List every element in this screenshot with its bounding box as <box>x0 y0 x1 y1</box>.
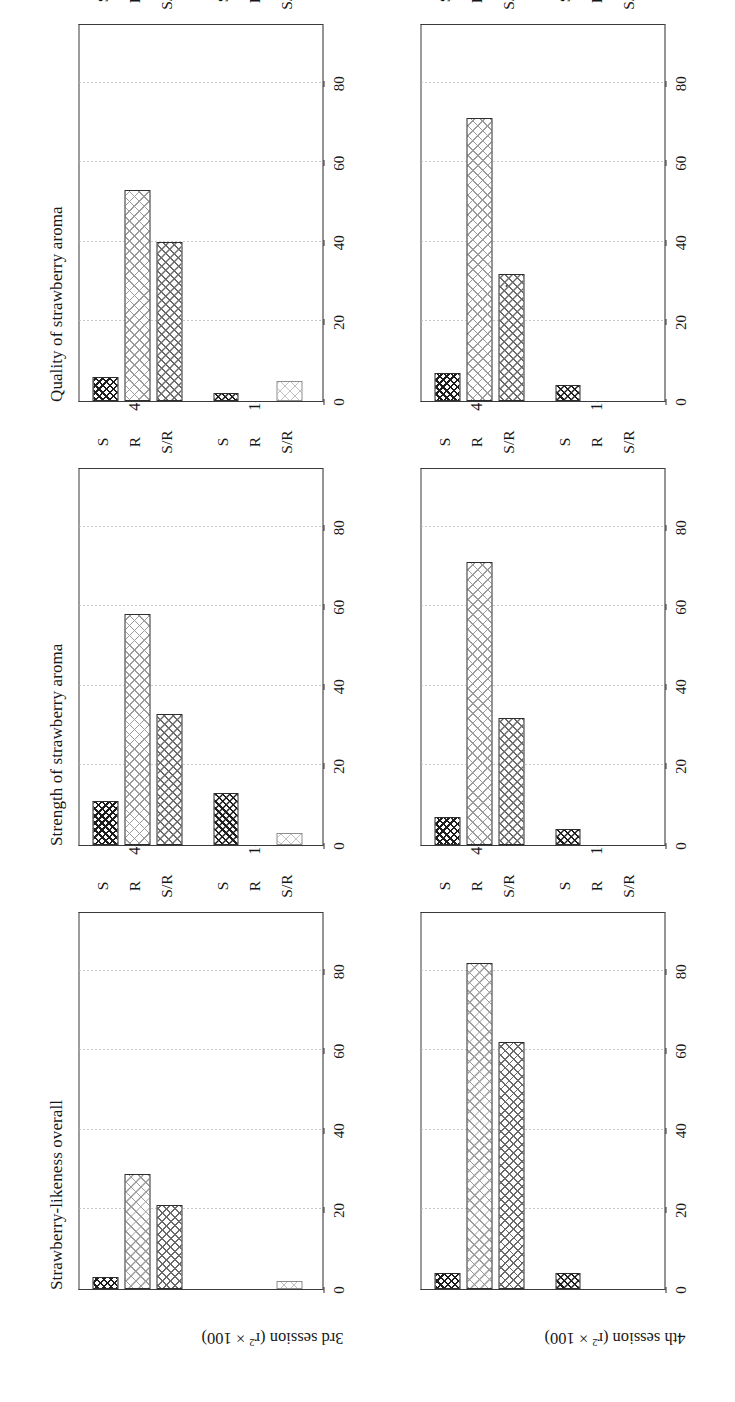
gridline <box>421 241 664 242</box>
y-axis-tick <box>665 763 666 769</box>
y-axis-tick-label: 60 <box>330 1027 347 1075</box>
y-axis-tick-label: 80 <box>672 504 689 552</box>
plot-area <box>78 912 323 1290</box>
y-axis-tick-label: 80 <box>672 60 689 108</box>
y-axis-tick <box>665 969 666 975</box>
x-axis-tick-label: S/R <box>277 425 295 459</box>
gridline <box>79 320 322 321</box>
y-axis-tick-label: 0 <box>330 822 347 870</box>
y-axis-tick <box>665 1128 666 1134</box>
y-axis-tick-label: 40 <box>330 663 347 711</box>
y-axis-tick-label: 80 <box>672 948 689 996</box>
bar <box>466 963 492 1289</box>
panel-title: Quality of strawberry aroma <box>46 206 66 402</box>
plot-area <box>420 912 665 1290</box>
gridline <box>79 605 322 606</box>
scan-speck <box>505 285 507 287</box>
y-axis-tick <box>665 604 666 610</box>
x-axis-tick-label: S/R <box>619 869 637 903</box>
x-axis-tick-label: R <box>587 869 605 903</box>
y-axis-tick <box>665 160 666 166</box>
y-axis-tick <box>323 969 324 975</box>
panel-title: Strength of strawberry aroma <box>46 644 66 846</box>
y-axis-tick <box>665 1048 666 1054</box>
y-axis-tick <box>665 81 666 87</box>
gridline <box>421 82 664 83</box>
gridline <box>421 1129 664 1130</box>
y-axis-tick <box>323 684 324 690</box>
plot-area <box>420 468 665 846</box>
y-axis-tick-label: 60 <box>672 583 689 631</box>
y-axis-label: 4th session (r2 × 100) <box>544 1328 685 1349</box>
x-axis-tick-label: S <box>93 0 111 15</box>
bar <box>466 563 492 846</box>
x-axis-tick-label: R <box>467 869 485 903</box>
bar <box>156 714 182 845</box>
bar <box>92 801 118 845</box>
x-axis-tick-label: R <box>467 425 485 459</box>
bar <box>92 377 118 401</box>
gridline <box>79 685 322 686</box>
y-axis-tick-label: 60 <box>330 583 347 631</box>
bar <box>434 817 460 845</box>
rotated-page-container: 020406080SRS/RSRS/R4-d1-d020406080SRS/RS… <box>0 0 735 1402</box>
y-axis-tick <box>665 684 666 690</box>
y-axis-tick <box>323 604 324 610</box>
y-axis-tick-label: 80 <box>330 504 347 552</box>
y-axis-tick <box>665 525 666 531</box>
bar <box>555 1273 581 1289</box>
y-axis-tick <box>323 763 324 769</box>
x-axis-tick-label: S <box>555 0 573 15</box>
x-axis-tick-label: R <box>125 425 143 459</box>
gridline <box>79 970 322 971</box>
x-axis-tick-label: S/R <box>277 0 295 15</box>
x-axis-tick-label: S/R <box>499 0 517 15</box>
gridline <box>421 685 664 686</box>
x-axis-tick-label: R <box>125 869 143 903</box>
y-axis-tick <box>323 525 324 531</box>
gridline <box>79 241 322 242</box>
bar <box>92 1277 118 1289</box>
x-axis-tick-label: R <box>245 425 263 459</box>
bar <box>555 829 581 845</box>
y-axis-tick-label: 40 <box>330 219 347 267</box>
y-axis-tick-label: 60 <box>330 139 347 187</box>
x-axis-tick-label: S <box>555 425 573 459</box>
gridline <box>421 970 664 971</box>
x-axis-tick-label: S/R <box>277 869 295 903</box>
y-axis-tick-label: 80 <box>330 948 347 996</box>
bar <box>498 1042 524 1289</box>
y-axis-tick-label: 0 <box>672 1266 689 1314</box>
bar <box>276 833 302 845</box>
y-axis-tick-label: 40 <box>672 663 689 711</box>
gridline <box>421 526 664 527</box>
x-axis-tick-label: S <box>213 869 231 903</box>
gridline <box>79 1208 322 1209</box>
gridline <box>421 605 664 606</box>
y-axis-tick-label: 20 <box>672 1186 689 1234</box>
bar <box>213 793 239 845</box>
y-axis-tick <box>665 240 666 246</box>
y-axis-tick-label: 0 <box>672 378 689 426</box>
y-axis-tick-label: 60 <box>672 139 689 187</box>
bar <box>276 381 302 401</box>
x-axis-tick-label: S/R <box>157 0 175 15</box>
gridline <box>421 1208 664 1209</box>
y-axis-tick <box>323 1048 324 1054</box>
bar <box>213 393 239 401</box>
x-axis-tick-label: S/R <box>499 425 517 459</box>
y-axis-tick <box>323 1287 324 1293</box>
bar <box>434 373 460 401</box>
bar <box>466 119 492 402</box>
gridline <box>79 82 322 83</box>
y-axis-tick-label: 20 <box>330 742 347 790</box>
bar <box>434 1273 460 1289</box>
bar <box>156 1205 182 1289</box>
y-axis-tick-label: 20 <box>330 1186 347 1234</box>
y-axis-tick-label: 0 <box>330 1266 347 1314</box>
gridline <box>79 161 322 162</box>
gridline <box>79 764 322 765</box>
gridline <box>79 526 322 527</box>
x-axis-tick-label: R <box>125 0 143 15</box>
x-axis-tick-label: S/R <box>619 425 637 459</box>
